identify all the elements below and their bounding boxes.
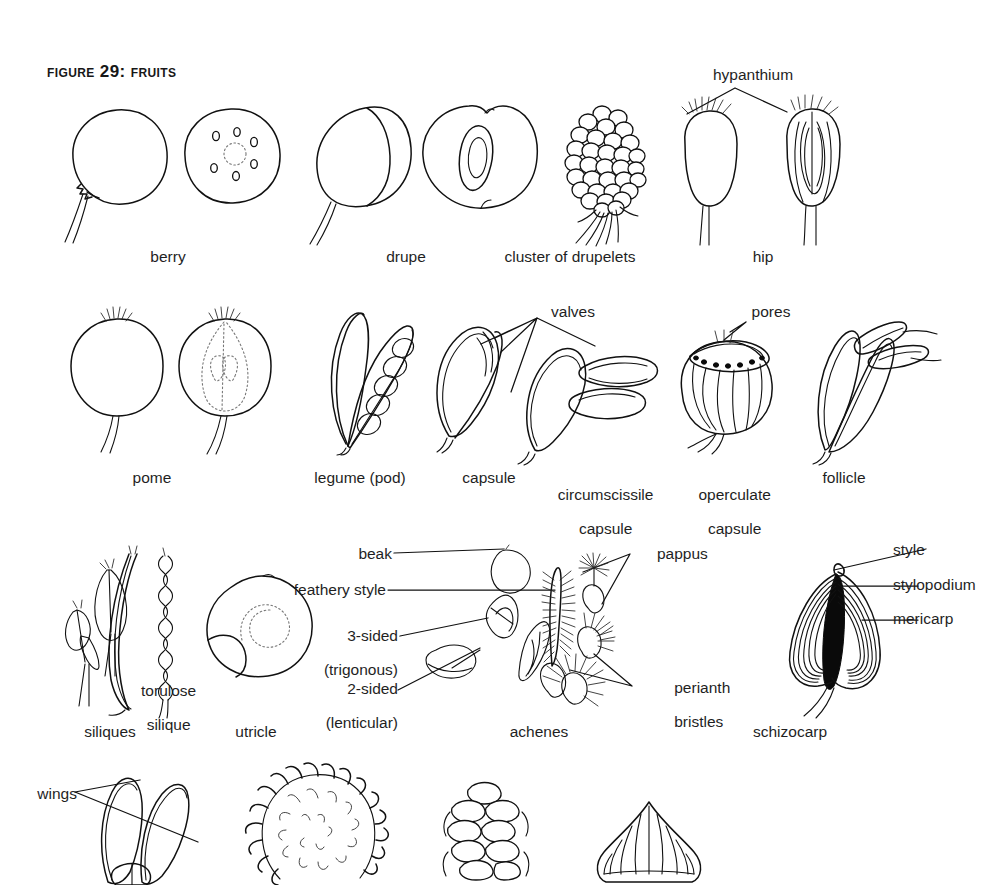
annotation-pores: pores [752, 303, 791, 320]
annotation-mericarp: mericarp [893, 610, 953, 627]
schizocarp-drawing [756, 540, 1000, 720]
figure-title: Figure 29: Fruits [47, 62, 177, 82]
berry-drawing [55, 96, 285, 246]
cluster-of-drupelets-drawing [550, 100, 660, 245]
label-circumscissile-capsule-line2: capsule [579, 520, 632, 537]
annotation-two-sided-lenticular: 2-sided (lenticular) [308, 663, 398, 748]
annotation-two-sided-line1: 2-sided [347, 680, 398, 697]
label-pome: pome [133, 469, 172, 486]
annotation-torulose-silique-line2: silique [147, 716, 191, 733]
annotation-perianth-bristles: perianth bristles [657, 662, 730, 747]
legume-pod-drawing [312, 300, 437, 455]
label-legume-pod: legume (pod) [314, 469, 405, 486]
annotation-perianth-line1: perianth [674, 679, 730, 696]
annotation-style: style [893, 541, 925, 558]
label-achenes: achenes [510, 723, 569, 740]
annotation-torulose-silique-line1: torulose [141, 682, 196, 699]
operculate-capsule-drawing [668, 300, 798, 455]
label-siliques: siliques [84, 723, 136, 740]
label-cluster-of-drupelets: cluster of drupelets [505, 248, 636, 265]
capsule-drawing [425, 300, 665, 455]
annotation-pappus: pappus [657, 545, 708, 562]
annotation-wings: wings [37, 785, 77, 802]
label-operculate-capsule-line1: operculate [698, 486, 770, 503]
hip-drawing [675, 82, 860, 247]
label-hip: hip [753, 248, 774, 265]
drupe-drawing [305, 96, 550, 246]
label-schizocarp: schizocarp [753, 723, 827, 740]
annotation-hypanthium: hypanthium [713, 66, 793, 83]
annotation-beak: beak [358, 545, 392, 562]
label-capsule: capsule [462, 469, 515, 486]
annotation-stylopodium: stylopodium [893, 576, 976, 593]
label-drupe: drupe [386, 248, 426, 265]
figure-title-text: Figure 29: Fruits [47, 62, 177, 81]
annotation-valves: valves [551, 303, 595, 320]
samara-wings-drawing [80, 770, 220, 885]
achenes-drawing [380, 540, 680, 720]
label-circumscissile-capsule-line1: circumscissile [558, 486, 654, 503]
annotation-feathery-style: feathery style [294, 581, 386, 598]
follicle-drawing [795, 300, 945, 455]
label-utricle: utricle [235, 723, 276, 740]
annotation-two-sided-line2: (lenticular) [326, 714, 398, 731]
label-berry: berry [150, 248, 185, 265]
annotation-three-sided-line1: 3-sided [347, 627, 398, 644]
pome-drawing [55, 300, 285, 455]
label-follicle: follicle [822, 469, 865, 486]
label-operculate-capsule-line2: capsule [708, 520, 761, 537]
nut-drawing [592, 800, 707, 879]
annotation-perianth-line2: bristles [674, 713, 723, 730]
strobile-drawing [430, 782, 540, 879]
bur-drawing [240, 772, 390, 879]
